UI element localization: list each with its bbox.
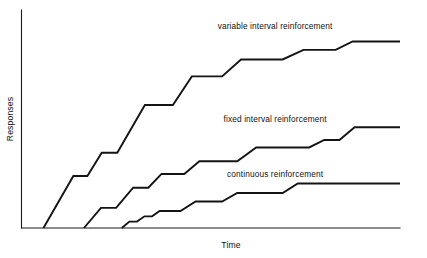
- y-axis-title: Responses: [5, 97, 15, 141]
- curve-continuous-reinforcement: [122, 183, 400, 228]
- curve-label-continuous-reinforcement: continuous reinforcement: [227, 169, 324, 179]
- curve-label-fixed-interval-reinforcement: fixed interval reinforcement: [224, 114, 328, 124]
- curve-label-variable-interval-reinforcement: variable interval reinforcement: [218, 21, 333, 31]
- cumulative-record-figure: variable interval reinforcement fixed in…: [0, 0, 427, 258]
- chart-canvas: variable interval reinforcement fixed in…: [0, 0, 427, 258]
- x-axis-title: Time: [221, 240, 240, 250]
